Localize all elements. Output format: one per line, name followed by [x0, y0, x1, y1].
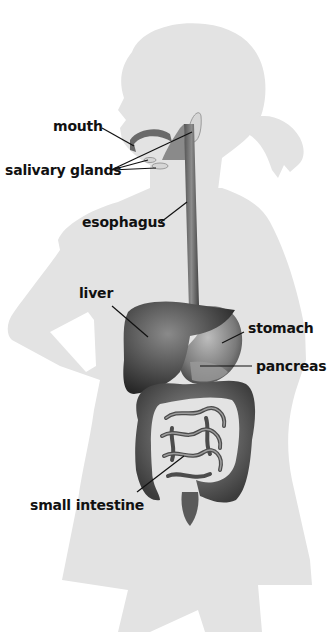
label-esophagus: esophagus: [82, 214, 165, 230]
label-salivary-glands: salivary glands: [5, 162, 121, 178]
label-mouth: mouth: [53, 118, 103, 134]
label-pancreas: pancreas: [256, 358, 326, 374]
label-liver: liver: [79, 285, 113, 301]
diagram-illustration: [0, 0, 328, 632]
label-stomach: stomach: [248, 320, 314, 336]
digestive-system-diagram: mouth salivary glands esophagus liver st…: [0, 0, 328, 632]
label-small-intestine: small intestine: [30, 497, 144, 513]
